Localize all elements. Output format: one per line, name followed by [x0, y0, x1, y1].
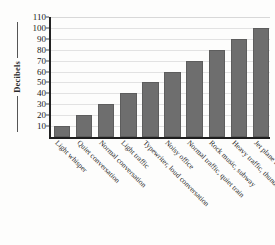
- plot-area: [49, 17, 270, 137]
- bar: [98, 104, 114, 137]
- y-tick-label: 40: [37, 89, 46, 98]
- y-tick-label: 80: [37, 45, 46, 54]
- x-axis-category-labels: Light whisperQuiet conversationNormal co…: [49, 139, 275, 245]
- y-tick-label: 60: [37, 67, 46, 76]
- y-tick-label: 20: [37, 111, 46, 120]
- y-tick-label: 10: [37, 122, 46, 131]
- bar: [231, 39, 247, 137]
- bar: [209, 50, 225, 137]
- y-axis-title-rule-bottom: [17, 96, 18, 132]
- bar: [120, 93, 136, 137]
- bar: [164, 72, 180, 137]
- bar: [253, 28, 269, 137]
- bar: [142, 82, 158, 137]
- y-axis-title-rule-top: [17, 22, 18, 58]
- y-tick-label: 50: [37, 78, 46, 87]
- bar: [186, 61, 202, 137]
- y-tick-label: 100: [33, 23, 47, 32]
- bar: [76, 115, 92, 137]
- bars-group: [49, 17, 270, 137]
- y-axis-tick-labels: 102030405060708090100110: [24, 17, 46, 137]
- y-tick-label: 30: [37, 100, 46, 109]
- y-tick-label: 110: [33, 13, 46, 22]
- decibels-bar-chart: Decibels 102030405060708090100110 Light …: [0, 0, 275, 245]
- y-tick-label: 90: [37, 34, 46, 43]
- y-axis-title: Decibels: [12, 58, 22, 96]
- y-tick-label: 70: [37, 56, 46, 65]
- bar: [54, 126, 70, 137]
